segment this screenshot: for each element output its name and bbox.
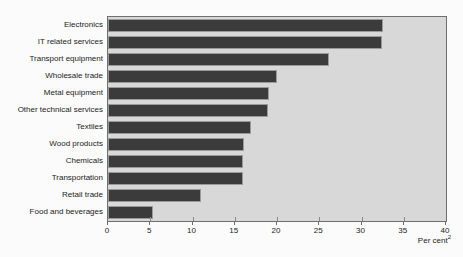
x-tick-label: 0 xyxy=(105,226,109,235)
x-tick-mark xyxy=(107,221,108,225)
plot-area xyxy=(107,16,447,222)
bar-row xyxy=(108,153,446,170)
bar-row xyxy=(108,17,446,34)
chart-page: ElectronicsIT related servicesTransport … xyxy=(0,0,463,257)
bar xyxy=(108,189,201,202)
bar xyxy=(108,70,277,83)
bar xyxy=(108,138,244,151)
bar-row xyxy=(108,187,446,204)
category-label: Wood products xyxy=(0,135,103,152)
x-axis-title: Per cent2 xyxy=(0,236,451,245)
x-tick-mark xyxy=(192,221,193,225)
bar-row xyxy=(108,170,446,187)
x-tick-mark xyxy=(403,221,404,225)
bar xyxy=(108,121,251,134)
category-label: Wholesale trade xyxy=(0,67,103,84)
x-tick-mark xyxy=(361,221,362,225)
bar-series xyxy=(108,17,446,221)
x-tick-mark xyxy=(445,221,446,225)
category-label: Other technical services xyxy=(0,101,103,118)
category-label: Retail trade xyxy=(0,186,103,203)
bar xyxy=(108,87,269,100)
x-tick-mark xyxy=(149,221,150,225)
category-axis-labels: ElectronicsIT related servicesTransport … xyxy=(0,16,103,220)
category-label: Electronics xyxy=(0,16,103,33)
bar xyxy=(108,104,268,117)
category-label: Food and beverages xyxy=(0,203,103,220)
bar xyxy=(108,19,383,32)
x-tick-label: 35 xyxy=(398,226,407,235)
x-tick-label: 25 xyxy=(314,226,323,235)
category-label: Chemicals xyxy=(0,152,103,169)
x-axis-title-footnote-marker: 2 xyxy=(448,234,451,240)
x-tick-mark xyxy=(234,221,235,225)
bar-row xyxy=(108,51,446,68)
x-tick-mark xyxy=(276,221,277,225)
bar xyxy=(108,172,243,185)
bar xyxy=(108,53,329,66)
bar-row xyxy=(108,119,446,136)
bar-row xyxy=(108,68,446,85)
category-label: Textiles xyxy=(0,118,103,135)
category-label: IT related services xyxy=(0,33,103,50)
category-label: Transport equipment xyxy=(0,50,103,67)
bar xyxy=(108,155,243,168)
category-label: Transportation xyxy=(0,169,103,186)
bar xyxy=(108,206,153,219)
x-tick-label: 10 xyxy=(187,226,196,235)
bar xyxy=(108,36,382,49)
bar-row xyxy=(108,102,446,119)
x-tick-label: 15 xyxy=(229,226,238,235)
x-tick-label: 30 xyxy=(356,226,365,235)
bar-row xyxy=(108,34,446,51)
bar-row xyxy=(108,85,446,102)
x-tick-mark xyxy=(318,221,319,225)
x-tick-label: 20 xyxy=(272,226,281,235)
bar-row xyxy=(108,136,446,153)
x-tick-label: 5 xyxy=(147,226,151,235)
category-label: Metal equipment xyxy=(0,84,103,101)
